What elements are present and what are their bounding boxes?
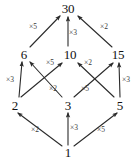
edge-label-n1-to-n5: ×5 [97,126,105,134]
edge-n1-to-n2 [18,113,62,146]
edge-label-n5-to-n15: ×3 [122,76,130,84]
node-15: 15 [112,48,125,61]
edge-label-n5-to-n10: ×5 [81,85,89,93]
node-10: 10 [64,48,77,61]
hasse-diagram: 30610152351 ×5×3×2×3×2×5×5×2×3×2×3×5 [0,0,138,160]
edge-label-n1-to-n3: ×3 [70,124,78,132]
edge-label-n15-to-n30: ×2 [100,23,108,31]
edge-label-n2-to-n10: ×5 [46,59,54,67]
node-5: 5 [117,99,123,112]
node-30: 30 [62,2,75,15]
node-6: 6 [21,48,27,61]
edge-n5-to-n15 [119,63,120,97]
edge-n3-to-n15 [74,63,113,97]
edge-n15-to-n30 [78,16,112,47]
node-2: 2 [12,99,18,112]
edge-label-n3-to-n6: ×2 [49,85,57,93]
edge-label-n1-to-n2: ×2 [31,126,39,134]
edge-label-n6-to-n30: ×5 [29,23,37,31]
edge-label-n10-to-n30: ×3 [69,29,77,37]
edge-n6-to-n30 [30,16,60,47]
edge-label-n3-to-n15: ×2 [84,59,92,67]
edge-label-n2-to-n6: ×3 [6,76,14,84]
node-3: 3 [65,99,71,112]
edge-n1-to-n5 [74,113,117,146]
edge-layer [0,0,138,160]
node-1: 1 [65,146,71,159]
edge-n2-to-n6 [19,62,22,97]
